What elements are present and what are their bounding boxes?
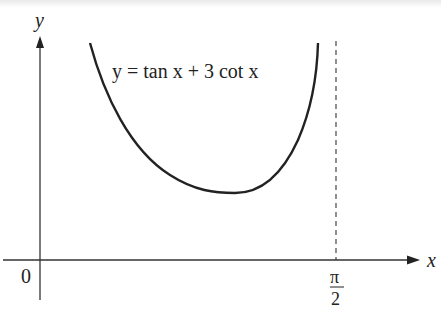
pi-label: π	[330, 268, 339, 286]
y-axis-arrow-icon	[36, 36, 44, 48]
x-axis-arrow-icon	[407, 256, 420, 265]
x-axis-label: x	[427, 250, 436, 270]
graph-canvas	[0, 0, 441, 311]
two-label: 2	[331, 290, 340, 308]
origin-label: 0	[21, 266, 31, 286]
graph-figure: y x 0 π 2 y = tan x + 3 cot x	[0, 0, 441, 311]
y-axis-label: y	[35, 10, 44, 30]
equation-label: y = tan x + 3 cot x	[112, 61, 258, 81]
